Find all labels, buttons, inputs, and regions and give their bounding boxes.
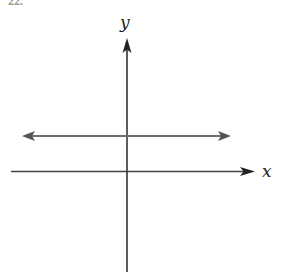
y-axis [123, 38, 132, 272]
graph-figure: 22. y x [0, 0, 283, 277]
y-axis-label: y [120, 14, 130, 31]
x-axis [11, 167, 255, 176]
x-axis-label: x [262, 163, 272, 180]
coordinate-plane [0, 0, 283, 277]
problem-number: 22. [8, 0, 23, 9]
